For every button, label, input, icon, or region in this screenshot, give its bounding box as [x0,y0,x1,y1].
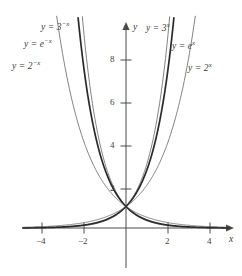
curve-label-e-x-exp: x [192,39,195,46]
y-tick-label-2: 2 [110,183,115,193]
x-tick-label-pos2: 2 [165,236,170,246]
curve-label-e-neg-x-text: y = e [24,39,44,49]
y-axis-arrowhead [122,22,129,30]
curve-label-3-neg-x-text: y = 3 [41,22,62,32]
curve-y-e-x [78,18,229,228]
curve-label-2-x-text: y = 2 [188,63,209,73]
curve-label-e-x: y = ex [172,41,195,51]
exponential-functions-figure: y = 3−x y = e−x y = 2−x y = 3x y = ex y … [0,0,242,276]
y-tick-label-4: 4 [110,140,115,150]
y-axis-label: y [133,22,137,32]
curve-label-2-x: y = 2x [188,63,212,73]
curve-y-e-x [23,18,174,228]
curve-label-e-x-text: y = e [172,41,192,51]
y-tick-label-6: 6 [110,97,115,107]
curve-label-2-neg-x-exp: −x [33,59,41,66]
curve-label-e-neg-x-exp: −x [44,37,52,44]
curve-y-3-x [82,17,229,228]
y-tick-label-8: 8 [110,54,115,64]
curve-label-2-neg-x-text: y = 2 [12,61,33,71]
curve-label-e-neg-x: y = e−x [24,39,52,49]
curve-label-3-x-exp: x [167,21,170,28]
x-tick-label-neg2: −2 [78,236,88,246]
curve-y-2-x [57,16,229,227]
x-tick-label-pos4: 4 [207,236,212,246]
curve-label-3-x: y = 3x [146,23,170,33]
curve-label-2-x-exp: x [209,61,212,68]
curve-label-3-x-text: y = 3 [146,23,167,33]
x-tick-label-neg4: −4 [36,236,46,246]
curve-label-3-neg-x-exp: −x [62,20,70,27]
curve-label-2-neg-x: y = 2−x [12,61,40,71]
x-axis-label: x [229,234,233,244]
axes-group [22,22,234,268]
curve-label-3-neg-x: y = 3−x [41,22,69,32]
